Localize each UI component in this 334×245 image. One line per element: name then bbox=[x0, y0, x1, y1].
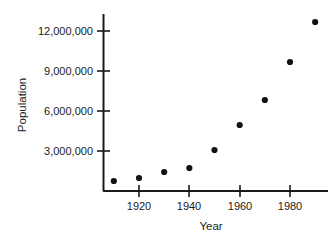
x-tick-label-1980: 1980 bbox=[278, 201, 302, 212]
x-tick-label-1940: 1940 bbox=[177, 201, 201, 212]
y-tick-label-6000000: 6,000,000 bbox=[44, 106, 93, 117]
y-tick-label-12000000: 12,000,000 bbox=[38, 26, 93, 37]
population-scatter-chart: 12,000,000 9,000,000 6,000,000 3,000,000… bbox=[0, 0, 334, 245]
data-point bbox=[161, 169, 167, 175]
y-tick-label-9000000: 9,000,000 bbox=[44, 66, 93, 77]
x-tick-label-1920: 1920 bbox=[127, 201, 151, 212]
x-tick-label-1960: 1960 bbox=[228, 201, 252, 212]
data-point bbox=[262, 97, 268, 103]
data-point bbox=[312, 19, 318, 25]
data-point bbox=[211, 147, 217, 153]
data-point bbox=[287, 59, 293, 65]
data-point bbox=[136, 175, 142, 181]
data-point bbox=[237, 122, 243, 128]
x-axis-title: Year bbox=[199, 221, 222, 233]
data-point bbox=[186, 165, 192, 171]
data-point bbox=[111, 178, 117, 184]
y-tick-label-3000000: 3,000,000 bbox=[44, 146, 93, 157]
data-point-group bbox=[111, 19, 319, 184]
